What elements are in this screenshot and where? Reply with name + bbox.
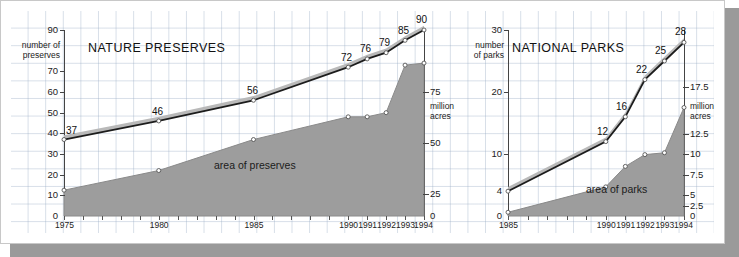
x-tickmark-1989 — [329, 216, 330, 220]
x-label-1993: 1993 — [396, 221, 415, 230]
y-tick-left-30: 30 — [16, 149, 58, 159]
data-point — [365, 115, 369, 119]
point-label-parks-1994: 28 — [675, 27, 686, 37]
x-tickmark-1987 — [291, 216, 292, 220]
chart-panel-nature-preserves: NATURE PRESERVES number ofpreserves 90 7… — [12, 10, 452, 232]
data-point — [251, 98, 255, 102]
x-tickmark-1976 — [83, 216, 84, 220]
y-tick-right-5: 5 — [690, 190, 730, 200]
data-point — [623, 115, 627, 119]
y-tick-left-40: 40 — [16, 128, 58, 138]
x-tickmark-1979 — [140, 216, 141, 220]
y-tickmark-left-90 — [60, 30, 65, 31]
x-tickmark-1987 — [547, 216, 548, 220]
point-label-parks-1985: 4 — [486, 186, 502, 196]
y-tick-right-17-5: 17.5 — [690, 82, 730, 92]
data-point — [403, 38, 407, 42]
x-label-1992: 1992 — [377, 221, 396, 230]
y-tickmark-right-75 — [423, 92, 429, 93]
point-label-preserves-1993: 85 — [398, 26, 409, 36]
area-annotation-preserves: area of preserves — [214, 159, 296, 171]
x-label-1980: 1980 — [150, 221, 169, 230]
y-tickmark-left-20 — [504, 92, 509, 93]
x-tickmark-1986 — [528, 216, 529, 220]
y-axis-label-right-parks: millionacres — [690, 102, 734, 121]
y-tickmark-left-70 — [60, 71, 65, 72]
y-tickmark-left-60 — [60, 92, 65, 93]
x-label-1985: 1985 — [245, 221, 264, 230]
y-tick-left-90: 90 — [16, 25, 58, 35]
y-tickmark-right-5 — [683, 195, 689, 196]
data-point — [623, 164, 627, 168]
point-label-parks-1990: 12 — [597, 127, 608, 137]
figure-root: NATURE PRESERVES number ofpreserves 90 7… — [0, 0, 739, 257]
data-point — [662, 151, 666, 155]
y-tickmark-left-30 — [504, 30, 509, 31]
data-point — [422, 61, 426, 65]
y-tickmark-left-30 — [60, 154, 65, 155]
y-tickmark-right-12-5 — [683, 134, 689, 135]
y-tickmark-right-10 — [683, 154, 689, 155]
data-point — [604, 140, 608, 144]
y-tick-right-2-5: 2.5 — [690, 201, 730, 211]
data-point — [62, 188, 66, 192]
y-tick-left-0: 0 — [16, 211, 58, 221]
data-point — [157, 169, 161, 173]
point-label-parks-1993: 25 — [655, 46, 666, 56]
data-point — [346, 115, 350, 119]
series-svg-preserves — [64, 30, 424, 216]
y-tick-right-7-5: 7.5 — [690, 170, 730, 180]
data-point — [157, 119, 161, 123]
y-tick-left-20: 20 — [464, 87, 502, 97]
x-label-1985: 1985 — [499, 221, 518, 230]
x-label-1991: 1991 — [616, 221, 635, 230]
x-tickmark-1989 — [586, 216, 587, 220]
point-label-parks-1991: 16 — [616, 102, 627, 112]
point-label-preserves-1975: 37 — [66, 126, 77, 136]
x-label-1975: 1975 — [55, 221, 74, 230]
data-point — [682, 106, 686, 110]
y-tickmark-left-10 — [504, 154, 509, 155]
plot-area-nature-preserves: number ofpreserves 90 70 60 50 40 30 20 … — [64, 30, 424, 216]
data-point — [643, 78, 647, 82]
point-label-preserves-1991: 76 — [360, 44, 371, 54]
data-point — [662, 59, 666, 63]
x-label-1994: 1994 — [674, 221, 693, 230]
point-label-preserves-1992: 79 — [379, 38, 390, 48]
x-label-1991: 1991 — [358, 221, 377, 230]
x-tickmark-1978 — [121, 216, 122, 220]
y-tick-left-50: 50 — [16, 108, 58, 118]
x-tickmark-1988 — [567, 216, 568, 220]
point-label-parks-1992: 22 — [636, 65, 647, 75]
area-annotation-parks: area of parks — [586, 183, 647, 195]
x-label-1993: 1993 — [655, 221, 674, 230]
y-tickmark-right-25 — [423, 194, 429, 195]
point-label-preserves-1990: 72 — [341, 53, 352, 63]
x-label-1992: 1992 — [636, 221, 655, 230]
y-tick-left-70: 70 — [16, 66, 58, 76]
y-tick-right-12-5: 12.5 — [690, 129, 730, 139]
x-tickmark-1986 — [272, 216, 273, 220]
y-tickmark-right-50 — [423, 143, 429, 144]
x-tickmark-1983 — [216, 216, 217, 220]
y-tickmark-left-20 — [60, 175, 65, 176]
point-label-preserves-1985: 56 — [247, 86, 258, 96]
area-of-preserves-fill — [64, 63, 424, 216]
y-tick-left-30: 30 — [464, 25, 502, 35]
y-tickmark-right-17-5 — [683, 87, 689, 88]
data-point — [506, 210, 510, 214]
x-tickmark-1981 — [178, 216, 179, 220]
y-tickmark-right-7-5 — [683, 175, 689, 176]
point-label-preserves-1980: 46 — [152, 107, 163, 117]
y-axis-label-left-preserves: number ofpreserves — [14, 41, 60, 60]
y-tickmark-right-2-5 — [683, 206, 689, 207]
data-point — [365, 57, 369, 61]
x-label-1990: 1990 — [339, 221, 358, 230]
y-tickmark-left-50 — [60, 113, 65, 114]
x-label-1994: 1994 — [414, 221, 433, 230]
x-tickmark-1977 — [102, 216, 103, 220]
data-point — [62, 138, 66, 142]
y-tick-left-20: 20 — [16, 170, 58, 180]
data-point — [403, 63, 407, 67]
data-point — [384, 111, 388, 115]
